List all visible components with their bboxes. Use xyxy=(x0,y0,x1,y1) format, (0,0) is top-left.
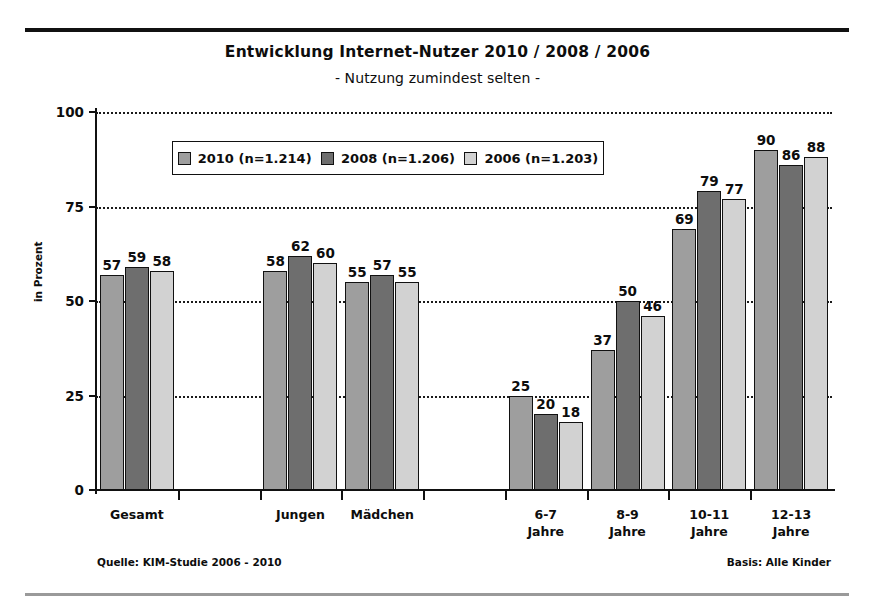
bar-value-label: 79 xyxy=(700,173,719,189)
x-axis-category-label: Mädchen xyxy=(341,506,423,523)
legend-swatch-icon xyxy=(464,152,477,165)
bar-value-label: 55 xyxy=(348,264,367,280)
x-axis-category-label: 12-13 Jahre xyxy=(750,506,832,540)
chart-subtitle: - Nutzung zumindest selten - xyxy=(0,70,875,86)
top-divider xyxy=(25,28,849,32)
source-note: Quelle: KIM-Studie 2006 - 2010 xyxy=(97,556,282,568)
basis-note: Basis: Alle Kinder xyxy=(727,556,831,568)
bar[interactable]: 69 xyxy=(672,229,696,490)
bar-value-label: 46 xyxy=(643,298,662,314)
bar-value-label: 57 xyxy=(102,257,121,273)
bar[interactable]: 57 xyxy=(100,275,124,490)
bar[interactable]: 50 xyxy=(616,301,640,490)
x-axis-tick xyxy=(587,490,589,500)
bar[interactable]: 25 xyxy=(509,396,533,491)
bar-value-label: 18 xyxy=(561,404,580,420)
x-axis-category-label: Jungen xyxy=(260,506,342,523)
bar-value-label: 69 xyxy=(675,211,694,227)
bar[interactable]: 55 xyxy=(395,282,419,490)
chart-figure: Entwicklung Internet-Nutzer 2010 / 2008 … xyxy=(0,0,875,608)
chart-title: Entwicklung Internet-Nutzer 2010 / 2008 … xyxy=(0,43,875,61)
bar[interactable]: 57 xyxy=(370,275,394,490)
bar-value-label: 37 xyxy=(593,332,612,348)
y-axis-tick-label: 100 xyxy=(56,104,84,120)
legend-label: 2010 (n=1.214) xyxy=(198,151,312,166)
bar-value-label: 25 xyxy=(511,378,530,394)
y-axis-tick-label: 0 xyxy=(75,482,84,498)
y-axis-tick xyxy=(89,206,97,208)
bar[interactable]: 58 xyxy=(263,271,287,490)
x-axis-category-label: 6-7 Jahre xyxy=(505,506,587,540)
x-axis-tick xyxy=(178,490,180,500)
bar[interactable]: 90 xyxy=(754,150,778,490)
legend-label: 2008 (n=1.206) xyxy=(341,151,455,166)
y-axis-tick xyxy=(89,300,97,302)
bar[interactable]: 62 xyxy=(288,256,312,490)
bar-value-label: 57 xyxy=(373,257,392,273)
bar-value-label: 60 xyxy=(316,245,335,261)
bar-value-label: 62 xyxy=(291,238,310,254)
bar[interactable]: 59 xyxy=(125,267,149,490)
x-axis-tick xyxy=(341,490,343,500)
bar-value-label: 20 xyxy=(536,396,555,412)
legend-swatch-icon xyxy=(178,152,191,165)
bar-value-label: 77 xyxy=(725,181,744,197)
bar-value-label: 55 xyxy=(398,264,417,280)
bar[interactable]: 55 xyxy=(345,282,369,490)
bar-group: 575958 xyxy=(100,112,174,490)
bar-group: 908688 xyxy=(754,112,828,490)
bar[interactable]: 18 xyxy=(559,422,583,490)
x-axis-tick xyxy=(423,490,425,500)
x-axis-tick xyxy=(505,490,507,500)
x-axis-tick xyxy=(668,490,670,500)
x-axis-tick xyxy=(750,490,752,500)
bar-value-label: 58 xyxy=(266,253,285,269)
x-axis-category-label: 8-9 Jahre xyxy=(587,506,669,540)
bottom-divider xyxy=(25,593,849,596)
bar[interactable]: 20 xyxy=(534,414,558,490)
chart-legend: 2010 (n=1.214)2008 (n=1.206)2006 (n=1.20… xyxy=(172,141,604,175)
bar[interactable]: 46 xyxy=(641,316,665,490)
y-axis-tick-label: 25 xyxy=(65,388,84,404)
bar[interactable]: 88 xyxy=(804,157,828,490)
bar[interactable]: 37 xyxy=(591,350,615,490)
bar-group: 697977 xyxy=(672,112,746,490)
bar[interactable]: 77 xyxy=(722,199,746,490)
x-axis-category-label: Gesamt xyxy=(96,506,178,523)
x-axis-category-label: 10-11 Jahre xyxy=(668,506,750,540)
y-axis-title: in Prozent xyxy=(32,241,44,302)
bar-value-label: 59 xyxy=(127,249,146,265)
y-axis-tick xyxy=(89,111,97,113)
bar-value-label: 90 xyxy=(757,132,776,148)
bar[interactable]: 60 xyxy=(313,263,337,490)
y-axis-tick-label: 75 xyxy=(65,199,84,215)
bar-value-label: 58 xyxy=(152,253,171,269)
legend-item[interactable]: 2010 (n=1.214) xyxy=(178,151,312,166)
bar[interactable]: 79 xyxy=(697,191,721,490)
bar[interactable]: 86 xyxy=(779,165,803,490)
y-axis-tick-label: 50 xyxy=(65,293,84,309)
bar-value-label: 86 xyxy=(782,147,801,163)
legend-item[interactable]: 2008 (n=1.206) xyxy=(321,151,455,166)
legend-item[interactable]: 2006 (n=1.203) xyxy=(464,151,598,166)
legend-swatch-icon xyxy=(321,152,334,165)
x-axis-tick xyxy=(260,490,262,500)
y-axis-tick xyxy=(89,395,97,397)
legend-label: 2006 (n=1.203) xyxy=(484,151,598,166)
bar[interactable]: 58 xyxy=(150,271,174,490)
bar-value-label: 88 xyxy=(807,139,826,155)
y-axis-tick xyxy=(89,489,97,491)
bar-value-label: 50 xyxy=(618,283,637,299)
